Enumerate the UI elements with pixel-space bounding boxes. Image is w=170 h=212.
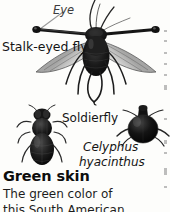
label-eye: Eye <box>53 4 74 16</box>
article-heading: Green skin <box>3 169 123 184</box>
label-celyphus-hyacinthus: Celyphus hyacinthus <box>83 140 167 170</box>
soldierfly-illustration <box>16 104 68 170</box>
label-stalk-eyed-fly: Stalk-eyed fly <box>2 40 88 53</box>
article-body: The green color of this South American <box>3 187 123 212</box>
article-block: Green skin The green color of this South… <box>3 169 123 212</box>
eye-stalks <box>32 26 159 35</box>
adjacent-column-sliver <box>162 0 170 212</box>
article-body-line: this South American <box>3 203 123 212</box>
antennae <box>90 0 130 31</box>
species-genus: Celyphus <box>83 140 167 155</box>
label-soldierfly: Soldierfly <box>62 112 118 125</box>
species-epithet: hyacinthus <box>79 155 167 170</box>
article-body-line: The green color of <box>3 187 123 202</box>
book-page-fragment: Eye Stalk-eyed fly Soldierfly Celyphus h… <box>0 0 170 212</box>
head <box>85 27 107 43</box>
legs <box>66 50 126 105</box>
